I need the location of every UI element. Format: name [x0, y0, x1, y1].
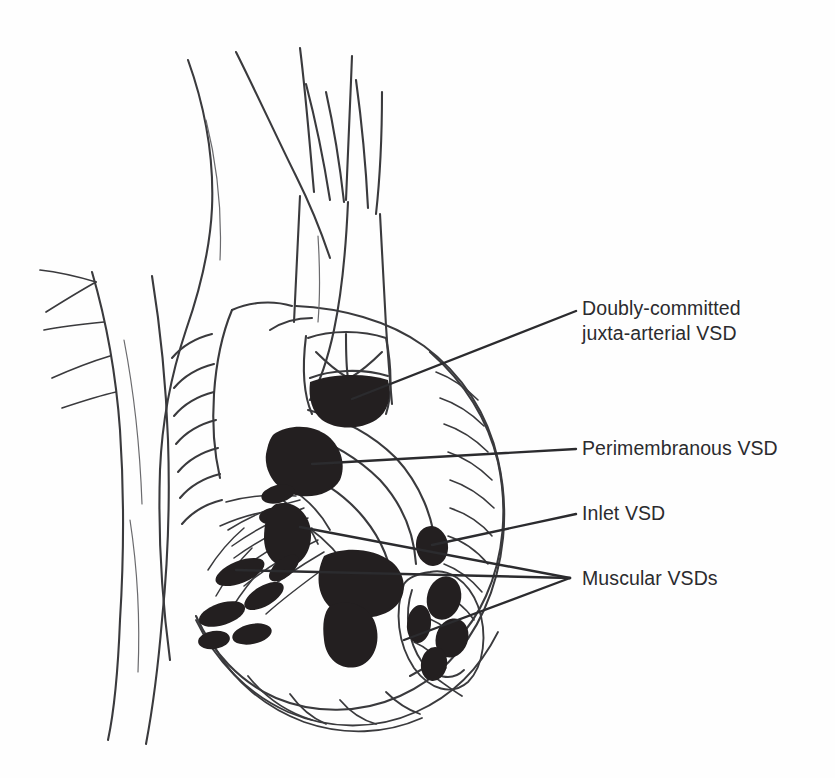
intercostal-branches: [40, 270, 116, 408]
vsd-anatomical-figure: Doubly-committed juxta-arterial VSD Peri…: [0, 0, 835, 778]
label-inlet-vsd: Inlet VSD: [582, 501, 665, 526]
label-doubly-committed-line1: Doubly-committed: [582, 296, 741, 321]
vessel-shading: [124, 120, 320, 672]
ventricular-septal-defects: [196, 375, 474, 683]
defect-muscular-trabecular-2: [196, 596, 248, 632]
defect-doubly-committed-juxta-arterial: [310, 375, 390, 428]
defect-muscular-trabecular-1: [212, 552, 268, 592]
left-common-carotid-artery: [306, 84, 344, 202]
label-perimembranous-vsd: Perimembranous VSD: [582, 436, 778, 461]
label-muscular-vsds: Muscular VSDs: [582, 566, 718, 591]
defect-muscular-trabecular-5: [230, 620, 273, 648]
heart-anatomy-illustration: [0, 0, 835, 778]
label-doubly-committed-line2: juxta-arterial VSD: [582, 321, 741, 346]
left-subclavian-artery: [356, 80, 382, 214]
descending-aorta: [92, 272, 169, 744]
label-doubly-committed-vsd: Doubly-committed juxta-arterial VSD: [582, 296, 741, 346]
pulmonary-trunk: [270, 196, 312, 330]
defect-muscular-trabecular-3: [240, 576, 288, 615]
